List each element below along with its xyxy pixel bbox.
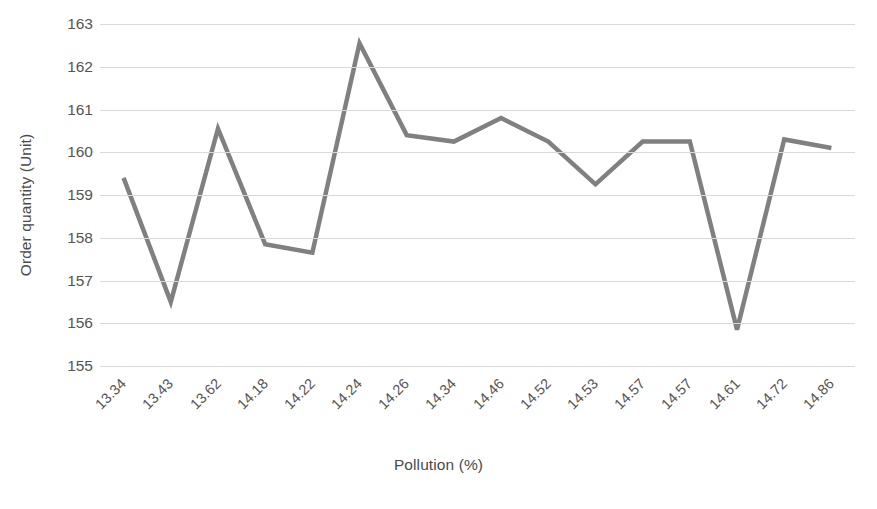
x-tick-label: 14.72 xyxy=(753,376,790,413)
y-tick-label: 160 xyxy=(47,143,93,161)
gridline xyxy=(100,281,855,282)
x-tick-label: 14.18 xyxy=(234,376,271,413)
y-tick-label: 163 xyxy=(47,15,93,33)
gridline xyxy=(100,366,855,367)
gridline xyxy=(100,323,855,324)
gridline xyxy=(100,238,855,239)
gridline xyxy=(100,110,855,111)
line-chart: Order quantity (Unit) 163162161160159158… xyxy=(0,0,877,509)
x-tick-label: 14.26 xyxy=(375,376,412,413)
x-tick-label: 13.34 xyxy=(92,376,129,413)
gridline xyxy=(100,24,855,25)
x-tick-label: 14.46 xyxy=(470,376,507,413)
gridline xyxy=(100,195,855,196)
y-tick-label: 155 xyxy=(47,357,93,375)
x-tick-label: 14.61 xyxy=(706,376,743,413)
y-tick-label: 158 xyxy=(47,229,93,247)
x-tick-label: 13.62 xyxy=(187,376,224,413)
y-axis-title: Order quantity (Unit) xyxy=(13,15,39,395)
x-tick-label: 14.22 xyxy=(281,376,318,413)
y-axis-tick-labels: 163162161160159158157156155 xyxy=(47,24,93,366)
gridline xyxy=(100,152,855,153)
y-tick-label: 162 xyxy=(47,58,93,76)
y-tick-label: 159 xyxy=(47,186,93,204)
x-axis-tick-labels: 13.3413.4313.6214.1814.2214.2414.2614.34… xyxy=(100,372,855,448)
series-polyline xyxy=(124,43,832,329)
x-tick-label: 14.57 xyxy=(658,376,695,413)
x-tick-label: 13.43 xyxy=(139,376,176,413)
gridline xyxy=(100,67,855,68)
x-tick-label: 14.52 xyxy=(517,376,554,413)
y-tick-label: 157 xyxy=(47,272,93,290)
plot-area xyxy=(100,24,855,366)
x-tick-label: 14.57 xyxy=(611,376,648,413)
x-tick-label: 14.86 xyxy=(800,376,837,413)
x-tick-label: 14.24 xyxy=(328,376,365,413)
y-tick-label: 161 xyxy=(47,101,93,119)
y-tick-label: 156 xyxy=(47,314,93,332)
x-axis-title: Pollution (%) xyxy=(0,456,877,474)
x-tick-label: 14.34 xyxy=(422,376,459,413)
x-tick-label: 14.53 xyxy=(564,376,601,413)
